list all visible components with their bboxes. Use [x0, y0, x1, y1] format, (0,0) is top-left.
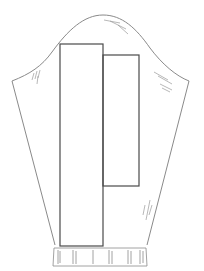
right-rectangle: [103, 55, 139, 186]
sleeve-outline: [12, 15, 189, 245]
diagram-canvas: Sleeve pattern piece with overlapping re…: [0, 0, 204, 271]
left-rectangle: [60, 44, 103, 246]
ribbed-cuff: [53, 248, 147, 266]
sleeve-diagram: [0, 0, 204, 271]
